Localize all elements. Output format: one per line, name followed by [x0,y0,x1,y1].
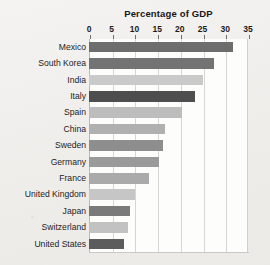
bar [89,124,165,135]
bar-row: Italy [0,88,270,104]
bar [89,157,159,168]
bar [89,206,130,217]
bar-rows: MexicoSouth KoreaIndiaItalySpainChinaSwe… [0,39,270,252]
bar [89,58,214,69]
bar-chart: Percentage of GDP 05101520253035 MexicoS… [0,0,270,265]
bar [89,173,149,184]
bar-row: Mexico [0,39,270,55]
bar [89,140,163,151]
bar [89,239,124,250]
bar-row: Germany [0,154,270,170]
bar-category-label: Spain [64,108,86,117]
x-tick-label: 10 [130,24,139,34]
bar-category-label: South Korea [38,59,86,68]
bar [89,107,182,118]
x-tick-label: 20 [175,24,184,34]
bar-row: India [0,72,270,88]
bar-category-label: Japan [63,207,86,216]
bar-category-label: United States [34,240,86,249]
x-tick-label: 25 [198,24,207,34]
bar [89,91,195,102]
bar-category-label: Sweden [55,141,86,150]
bar-row: Sweden [0,137,270,153]
x-tick-label: 30 [221,24,230,34]
bar-row: Spain [0,105,270,121]
bar [89,42,233,53]
bar-row: China [0,121,270,137]
x-tick-label: 5 [109,24,114,34]
bar-row: United Kingdom [0,186,270,202]
bar-row: South Korea [0,55,270,71]
bar-row: France [0,170,270,186]
x-tick-label: 35 [243,24,252,34]
bar-category-label: Italy [70,92,86,101]
bar [89,222,128,233]
bar-row: Switzerland [0,219,270,235]
bar-category-label: Switzerland [42,223,86,232]
chart-title: Percentage of GDP [89,8,248,19]
x-tick-label: 0 [87,24,92,34]
bar-category-label: India [67,76,86,85]
bar [89,189,135,200]
bar-category-label: China [64,125,86,134]
bar-category-label: Mexico [59,43,86,52]
x-axis-baseline [89,252,249,253]
bar [89,75,203,86]
x-tick-label: 15 [152,24,161,34]
bar-category-label: Germany [51,158,86,167]
bar-category-label: France [59,174,86,183]
bar-row: United States [0,236,270,252]
bar-row: Japan [0,203,270,219]
bar-category-label: United Kingdom [25,190,86,199]
